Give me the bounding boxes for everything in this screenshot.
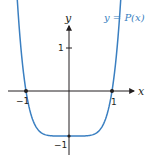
- graph: x y y = P(x) −1 1 1 −1: [0, 0, 153, 161]
- point-0-neg1: [67, 134, 70, 137]
- point-neg1-0: [24, 89, 28, 93]
- curve-label: y = P(x): [103, 12, 145, 23]
- x-tick-label-neg1: −1: [16, 96, 29, 106]
- x-axis-label: x: [138, 85, 145, 98]
- point-1-0: [110, 89, 114, 93]
- x-tick-label-1: 1: [111, 97, 117, 107]
- y-axis-label: y: [64, 12, 72, 25]
- y-tick-label-1: 1: [58, 43, 64, 53]
- y-tick-label-neg1: −1: [54, 140, 67, 150]
